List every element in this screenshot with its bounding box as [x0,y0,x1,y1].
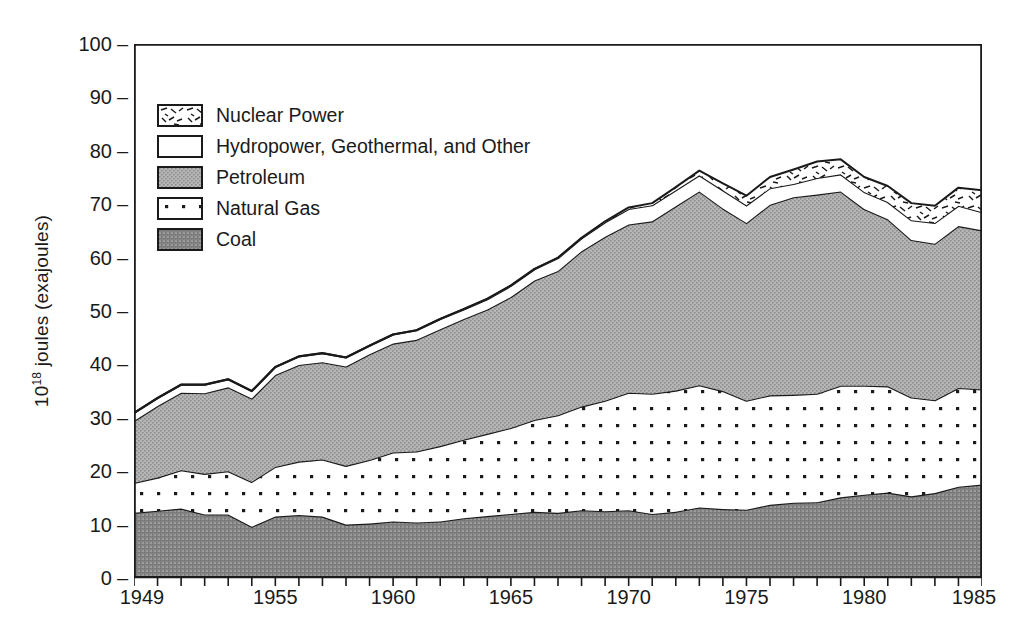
y-tick-label: 20– [58,461,128,481]
legend-swatch-hydro [157,135,203,158]
chart-legend: Nuclear PowerHydropower, Geothermal, and… [157,100,530,255]
legend-label: Natural Gas [216,199,320,219]
legend-item-nuclear: Nuclear Power [157,100,530,131]
x-tick-label: 1980 [842,586,887,608]
x-tick-label: 1975 [724,586,769,608]
chart-figure: 1018 joules (exajoules) 100–90–80–70–60–… [0,0,1030,643]
x-tick-label: 1960 [371,586,416,608]
x-tick-label: 1955 [253,586,298,608]
legend-item-petroleum: Petroleum [157,162,530,193]
y-tick-label: 0– [58,568,128,588]
legend-swatch-coal [157,228,203,251]
y-axis-label-rest: joules (exajoules) [31,215,52,372]
y-tick-label: 100– [58,34,128,54]
y-axis-label-mantissa: 10 [31,386,52,408]
y-tick-label: 50– [58,301,128,321]
legend-label: Hydropower, Geothermal, and Other [216,137,530,157]
y-axis-label-exponent: 18 [30,372,44,386]
legend-label: Coal [216,230,256,250]
y-tick-label: 80– [58,141,128,161]
x-axis-minor-ticks [134,578,982,586]
legend-label: Nuclear Power [216,106,344,126]
legend-label: Petroleum [216,168,305,188]
y-axis-ticks: 100–90–80–70–60–50–40–30–20–10–0– [52,0,128,643]
y-tick-label: 30– [58,408,128,428]
legend-item-coal: Coal [157,224,530,255]
y-tick-label: 10– [58,515,128,535]
y-tick-label: 60– [58,248,128,268]
legend-item-natural_gas: Natural Gas [157,193,530,224]
legend-swatch-natural_gas [157,197,203,220]
x-tick-label: 1985 [952,586,997,608]
x-tick-label: 1965 [489,586,534,608]
x-tick-label: 1949 [120,586,165,608]
y-tick-label: 90– [58,87,128,107]
y-tick-label: 40– [58,354,128,374]
legend-swatch-petroleum [157,166,203,189]
legend-item-hydro: Hydropower, Geothermal, and Other [157,131,530,162]
y-tick-label: 70– [58,194,128,214]
x-axis-ticks: 19491955196019651970197519801985 [0,586,1030,626]
x-tick-label: 1970 [606,586,651,608]
y-axis-label: 1018 joules (exajoules) [31,101,53,521]
legend-swatch-nuclear [157,104,203,127]
